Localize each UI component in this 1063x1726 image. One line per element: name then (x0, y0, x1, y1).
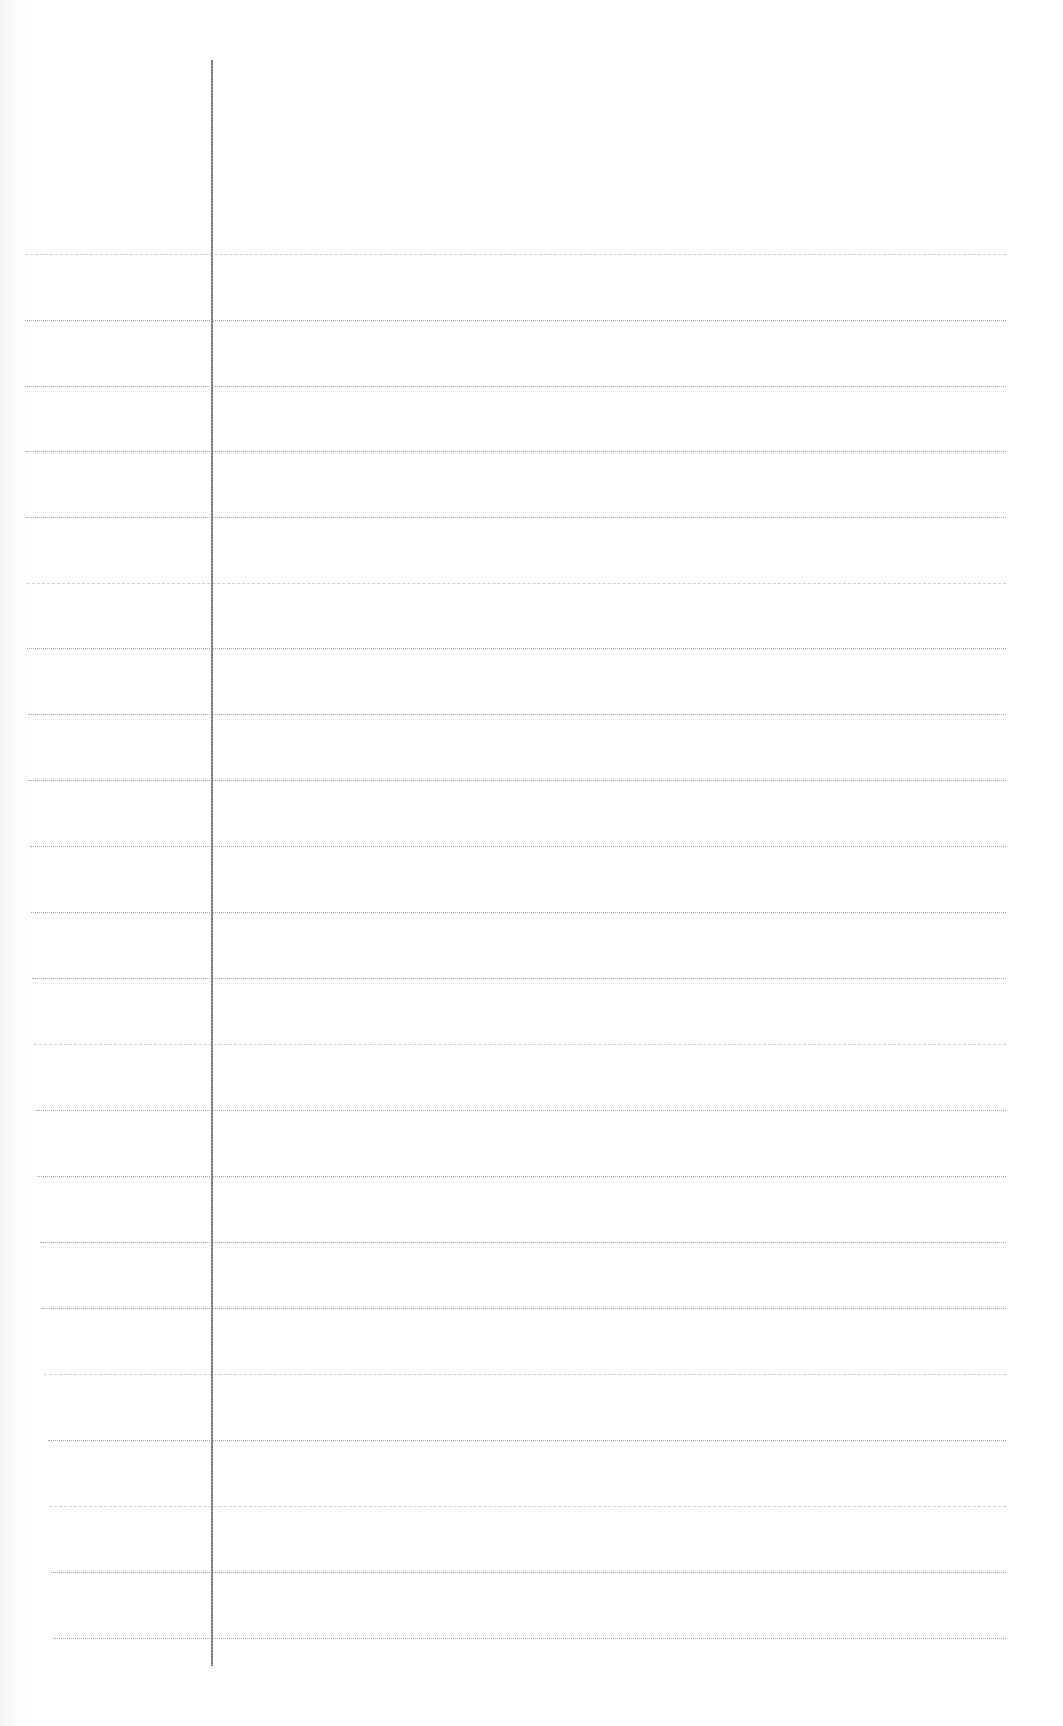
ruled-line (25, 386, 1006, 387)
ruled-line (25, 320, 1006, 321)
ruled-line (34, 1044, 1006, 1045)
ruled-line (32, 978, 1006, 979)
margin-line (211, 60, 213, 1666)
ruled-line (42, 1308, 1006, 1309)
ruled-line (51, 1572, 1006, 1573)
ruled-line (48, 1440, 1006, 1441)
ruled-line (27, 583, 1006, 584)
ruled-line (28, 714, 1006, 715)
ruled-line (37, 1176, 1006, 1177)
ruled-line (26, 517, 1006, 518)
ruled-line (27, 648, 1006, 649)
ruled-line (31, 912, 1006, 913)
lined-paper-sheet (0, 0, 1063, 1726)
ruled-line (40, 1242, 1006, 1243)
ruled-line (53, 1638, 1006, 1639)
ruled-line (25, 254, 1006, 255)
ruled-line (30, 846, 1006, 847)
ruled-line (44, 1374, 1006, 1375)
ruled-line (28, 780, 1006, 781)
ruled-line (49, 1506, 1006, 1507)
ruled-line (26, 451, 1006, 452)
ruled-line (36, 1110, 1006, 1111)
